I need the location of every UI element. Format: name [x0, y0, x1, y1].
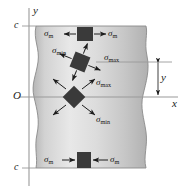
bottom-element-left-stress-label: σm — [44, 155, 53, 164]
bottom-element-right-stress-label: σm — [110, 155, 119, 164]
middle-element-min-stress-label: σmin — [52, 46, 66, 55]
y-axis-label: y — [33, 5, 38, 16]
figure-canvas — [0, 0, 188, 192]
tick-label-bottom-c: c — [14, 162, 18, 172]
sigma-subscript: max — [108, 56, 119, 63]
top-element-right-stress-label: σm — [108, 29, 117, 38]
center-element-max-stress-label: σmax — [96, 78, 111, 87]
x-axis-label: x — [172, 98, 177, 109]
origin-label: O — [13, 90, 21, 101]
sigma-subscript: max — [100, 81, 111, 88]
center-element-min-stress-label: σmin — [96, 115, 110, 124]
sigma-subscript: m — [48, 32, 53, 39]
middle-element-max-stress-label: σmax — [104, 53, 119, 62]
sigma-subscript: min — [100, 118, 110, 125]
stress-element-figure: y x O c c y σm σm σmin σmax σmax σmin σm… — [0, 0, 188, 192]
sigma-subscript: m — [112, 32, 117, 39]
bottom-element-square — [77, 152, 91, 168]
tick-label-top-c: c — [14, 20, 18, 30]
top-element-left-stress-label: σm — [44, 29, 53, 38]
top-element-square — [77, 27, 93, 41]
y-dimension-label: y — [161, 72, 166, 83]
sigma-subscript: min — [56, 49, 66, 56]
sigma-subscript: m — [48, 158, 53, 165]
sigma-subscript: m — [114, 158, 119, 165]
